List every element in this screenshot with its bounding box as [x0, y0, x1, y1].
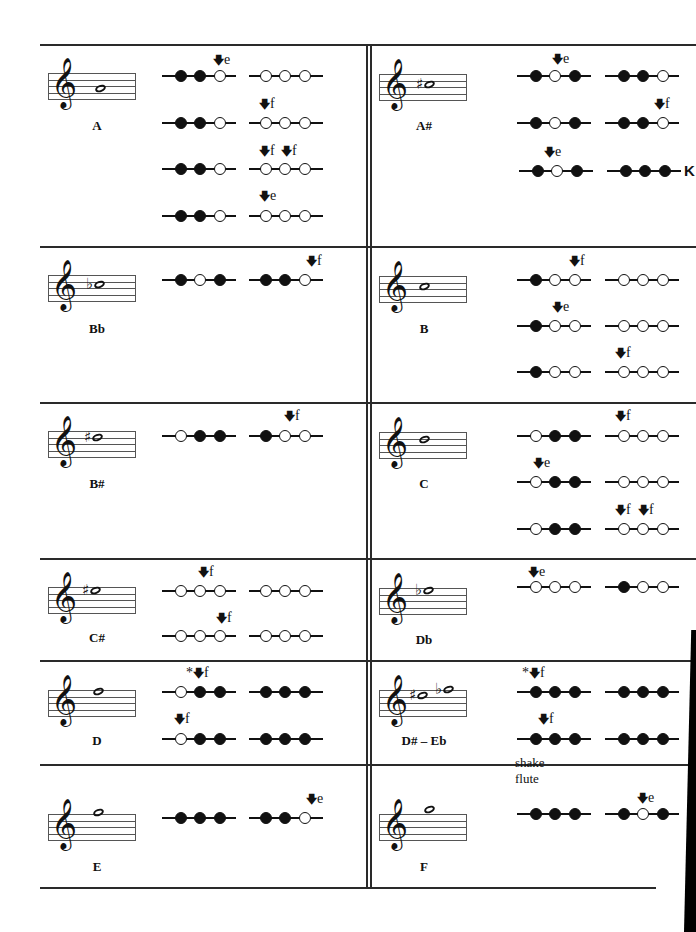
note-label: E [47, 859, 147, 875]
staff: 𝄞 ♭ [379, 588, 467, 615]
shade-mark: 🡇f [615, 346, 631, 361]
fingering-right-hand [249, 163, 323, 175]
shade-mark: 🡇f [174, 712, 190, 727]
fingering-left-hand [162, 812, 236, 824]
fingering-right-hand [607, 165, 681, 177]
note-head-icon: ♭ [435, 680, 454, 698]
fingering-left-hand [162, 686, 236, 698]
row-divider-bottom [40, 887, 656, 889]
note-head-icon: ♭ [415, 581, 434, 599]
fingering-right-hand [605, 733, 679, 745]
fingering-right-hand [605, 808, 679, 820]
fingering-right-hand [249, 430, 323, 442]
fingering-left-hand [162, 430, 236, 442]
note-head-icon: ♯ [409, 686, 428, 704]
fingering-left-hand [162, 630, 236, 642]
fingering-left-hand [162, 585, 236, 597]
row-divider-2 [40, 402, 696, 404]
treble-clef-icon: 𝄞 [51, 574, 77, 618]
note-head-icon [93, 804, 104, 819]
row-divider-1 [40, 246, 696, 248]
staff: 𝄞 [48, 73, 136, 100]
shade-mark: 🡇f [284, 409, 300, 424]
down-arrow-icon: 🡇 [306, 255, 317, 268]
fingering-left-hand [162, 733, 236, 745]
fingering-left-hand [162, 163, 236, 175]
treble-clef-icon: 𝄞 [382, 61, 408, 105]
note-head-icon: ♭ [86, 275, 105, 293]
shade-mark: 🡇f [216, 611, 232, 626]
down-arrow-icon: 🡇 [552, 53, 563, 66]
fingering-left-hand [517, 581, 591, 593]
shade-mark: 🡇e [552, 52, 569, 67]
down-arrow-icon: 🡇 [615, 410, 626, 423]
fingering-right-hand [249, 70, 323, 82]
down-arrow-icon: 🡇 [552, 301, 563, 314]
note-label: A# [374, 118, 474, 134]
note-label: C# [47, 630, 147, 646]
down-arrow-icon: 🡇 [216, 612, 227, 625]
shade-mark: 🡇e [213, 53, 230, 68]
shade-mark: 🡇f [306, 254, 322, 269]
down-arrow-icon: 🡇 [615, 347, 626, 360]
treble-clef-icon: 𝄞 [51, 418, 77, 462]
treble-clef-icon: 𝄞 [51, 801, 77, 845]
staff: 𝄞 ♯ [48, 431, 136, 458]
fingering-right-hand [605, 476, 679, 488]
staff: 𝄞 ♯ [379, 74, 467, 101]
down-arrow-icon: 🡇 [528, 566, 539, 579]
fingering-left-hand [517, 808, 591, 820]
fingering-right-hand [605, 70, 679, 82]
down-arrow-icon: 🡇 [654, 98, 665, 111]
shade-mark: 🡇f [615, 409, 631, 424]
note-head-icon: ♯ [84, 428, 103, 446]
fingering-left-hand [519, 165, 593, 177]
fingering-right-hand [249, 585, 323, 597]
shade-mark: 🡇f [615, 503, 631, 518]
note-head-icon [419, 278, 430, 293]
shake-flute-note: shake flute [515, 755, 545, 787]
fingering-left-hand [517, 430, 591, 442]
fingering-right-hand [605, 686, 679, 698]
fingering-right-hand [249, 630, 323, 642]
fingering-right-hand [605, 366, 679, 378]
down-arrow-icon: 🡇 [533, 457, 544, 470]
note-label: F [374, 859, 474, 875]
note-label: D# – Eb [374, 733, 474, 749]
staff: 𝄞 [379, 814, 467, 841]
staff: 𝄞 [379, 432, 467, 459]
fingering-left-hand [162, 70, 236, 82]
treble-clef-icon: 𝄞 [382, 575, 408, 619]
fingering-left-hand [517, 274, 591, 286]
staff: 𝄞 [48, 690, 136, 717]
note-head-icon [419, 431, 430, 446]
fingering-right-hand [605, 274, 679, 286]
note-label: Db [374, 632, 474, 648]
fingering-right-hand [605, 430, 679, 442]
column-divider-a [366, 44, 368, 889]
down-arrow-icon: 🡇 [637, 792, 648, 805]
treble-clef-icon: 𝄞 [382, 677, 408, 721]
staff: 𝄞 ♯ [48, 587, 136, 614]
fingering-left-hand [517, 523, 591, 535]
shade-mark: 🡇e [528, 565, 545, 580]
fingering-left-hand [517, 733, 591, 745]
fingering-left-hand [517, 320, 591, 332]
shade-mark: *🡇f [522, 666, 545, 681]
shade-mark: 🡇e [544, 145, 561, 160]
down-arrow-icon: 🡇 [259, 145, 270, 158]
note-head-icon [93, 683, 104, 698]
down-arrow-icon: 🡇 [638, 504, 649, 517]
fingering-left-hand [162, 274, 236, 286]
fingering-left-hand [517, 686, 591, 698]
row-divider-4 [40, 660, 696, 662]
fingering-left-hand [517, 476, 591, 488]
fingering-right-hand [249, 210, 323, 222]
down-arrow-icon: 🡇 [259, 98, 270, 111]
scan-edge-shadow [684, 630, 696, 932]
staff: 𝄞 [379, 276, 467, 303]
treble-clef-icon: 𝄞 [51, 262, 77, 306]
note-label: B [374, 321, 474, 337]
treble-clef-icon: 𝄞 [382, 419, 408, 463]
fingering-right-hand [249, 733, 323, 745]
